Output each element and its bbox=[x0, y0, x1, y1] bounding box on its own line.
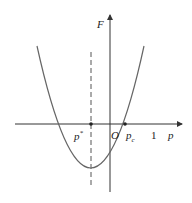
plot-area bbox=[0, 0, 192, 203]
p-c-point bbox=[123, 122, 127, 126]
p-star-point bbox=[89, 122, 93, 126]
chart: F p O p* pc 1 bbox=[0, 0, 192, 203]
y-axis-label: F bbox=[97, 19, 104, 30]
p-star-label: p* bbox=[74, 130, 83, 142]
x-axis-label: p bbox=[168, 130, 174, 141]
p-c-label: pc bbox=[126, 130, 135, 144]
origin-label: O bbox=[111, 130, 119, 141]
tick-1-label: 1 bbox=[151, 130, 157, 141]
